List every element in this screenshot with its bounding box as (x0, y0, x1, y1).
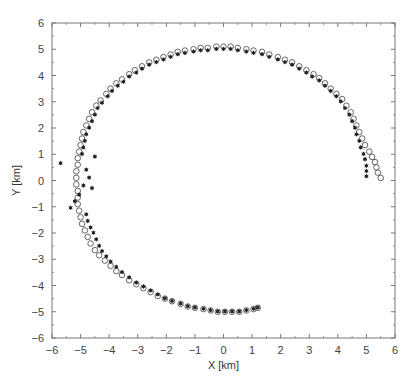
circle-marker (96, 253, 102, 259)
circle-marker (76, 208, 82, 214)
circle-marker (75, 155, 81, 161)
circle-marker (85, 234, 91, 240)
x-tick-label: −1 (189, 344, 202, 356)
circle-marker (102, 258, 108, 264)
x-tick-label: 0 (220, 344, 226, 356)
series-open-circles (73, 44, 383, 315)
x-axis-label: X [km] (208, 359, 239, 371)
plot-frame (52, 23, 395, 338)
x-tick-label: 1 (249, 344, 255, 356)
scatter-chart: −6−5−4−3−2−10123456 −6−5−4−3−2−10123456 … (0, 0, 415, 389)
circle-marker (375, 170, 381, 176)
y-tick-label: −5 (31, 306, 44, 318)
x-tick-label: 5 (363, 344, 369, 356)
circle-marker (79, 221, 85, 227)
circle-marker (75, 162, 81, 168)
x-tick-label: 6 (392, 344, 398, 356)
x-tick-label: 4 (335, 344, 341, 356)
x-tick-label: −6 (46, 344, 59, 356)
y-tick-label: 2 (38, 122, 44, 134)
circle-marker (369, 154, 375, 160)
circle-marker (88, 241, 94, 247)
x-tick-label: −4 (103, 344, 116, 356)
y-tick-label: −6 (31, 332, 44, 344)
axis-ticks (52, 23, 395, 338)
y-tick-label: 1 (38, 148, 44, 160)
y-tick-label: 5 (38, 43, 44, 55)
y-tick-label: −3 (31, 253, 44, 265)
y-tick-label: 3 (38, 96, 44, 108)
circle-marker (78, 214, 84, 220)
x-tick-label: −3 (131, 344, 144, 356)
circle-marker (75, 188, 81, 194)
x-tick-labels: −6−5−4−3−2−10123456 (46, 344, 398, 356)
y-tick-labels: −6−5−4−3−2−10123456 (31, 17, 44, 344)
circle-marker (114, 268, 120, 274)
y-tick-label: −4 (31, 280, 44, 292)
circle-marker (366, 149, 372, 155)
x-tick-label: −2 (160, 344, 173, 356)
y-axis-label: Y [km] (10, 165, 22, 196)
y-tick-label: 6 (38, 17, 44, 29)
x-tick-label: −5 (74, 344, 87, 356)
x-tick-label: 2 (278, 344, 284, 356)
series-filled-stars (59, 47, 369, 314)
y-tick-label: 0 (38, 175, 44, 187)
circle-marker (73, 175, 79, 181)
y-tick-label: −2 (31, 227, 44, 239)
circle-marker (378, 175, 384, 181)
circle-marker (73, 169, 79, 175)
circle-marker (92, 247, 98, 253)
circle-marker (374, 165, 380, 171)
y-tick-label: −1 (31, 201, 44, 213)
circle-marker (82, 228, 88, 234)
circle-marker (362, 142, 368, 148)
circle-marker (73, 182, 79, 188)
x-tick-label: 3 (306, 344, 312, 356)
y-tick-label: 4 (38, 70, 44, 82)
circle-marker (372, 159, 378, 165)
circle-marker (108, 263, 114, 269)
